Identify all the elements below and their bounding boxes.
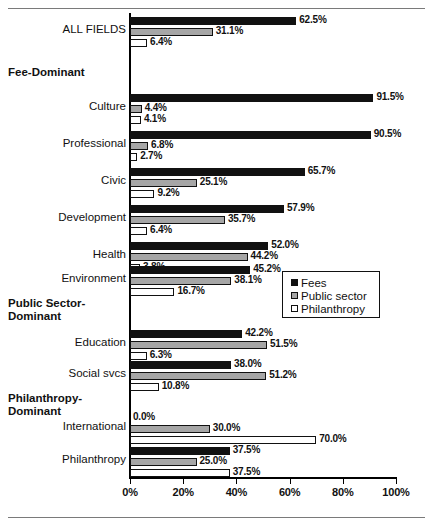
bar-philanthropy <box>130 352 147 360</box>
x-tick-mark <box>290 479 291 484</box>
bar-fees <box>130 330 242 338</box>
x-tick-label: 0% <box>122 486 138 498</box>
plot-area: 62.5%31.1%6.4%91.5%4.4%4.1%90.5%6.8%2.7%… <box>130 13 396 478</box>
bar-fees <box>130 131 371 139</box>
gray-square-icon <box>291 292 298 299</box>
bar-value-label: 2.7% <box>140 152 162 160</box>
bar-value-label: 9.2% <box>157 189 179 197</box>
bar-value-label: 25.1% <box>200 178 227 186</box>
bar-value-label: 0.0% <box>133 413 155 421</box>
bar-value-label: 30.0% <box>213 424 240 432</box>
legend-item-public-sector: Public sector <box>291 289 379 302</box>
category-label: Development <box>2 211 126 223</box>
section-header: Fee-Dominant <box>8 66 128 79</box>
bar-public-sector <box>130 105 142 113</box>
x-tick-mark <box>396 479 397 484</box>
bar-value-label: 35.7% <box>228 215 255 223</box>
bar-philanthropy <box>130 190 154 198</box>
bar-fees <box>130 447 230 455</box>
bar-public-sector <box>130 179 197 187</box>
bar-fees <box>130 242 268 250</box>
legend-label-philanthropy: Philanthropy <box>301 303 365 315</box>
bar-philanthropy <box>130 39 147 47</box>
x-tick-mark <box>343 479 344 484</box>
bar-fees <box>130 205 284 213</box>
bar-value-label: 25.0% <box>200 457 227 465</box>
chart-page: ALL FIELDSFee-DominantCultureProfessiona… <box>0 0 431 526</box>
chart-legend: Fees Public sector Philanthropy <box>282 271 380 318</box>
bar-value-label: 70.0% <box>319 435 346 443</box>
legend-label-fees: Fees <box>301 277 327 289</box>
bar-value-label: 10.8% <box>162 382 189 390</box>
bar-value-label: 51.2% <box>269 371 296 379</box>
bar-value-label: 90.5% <box>374 130 401 138</box>
category-label: Culture <box>2 100 126 112</box>
category-label: Education <box>2 336 126 348</box>
legend-label-public-sector: Public sector <box>301 290 367 302</box>
x-tick-label: 20% <box>172 486 193 498</box>
x-tick-label: 80% <box>332 486 353 498</box>
bar-value-label: 31.1% <box>216 27 243 35</box>
category-label: Philanthropy <box>2 453 126 465</box>
x-tick-label: 60% <box>279 486 300 498</box>
bar-value-label: 91.5% <box>376 93 403 101</box>
bar-fees <box>130 94 373 102</box>
bar-philanthropy <box>130 436 316 444</box>
category-label: Environment <box>2 272 126 284</box>
legend-item-fees: Fees <box>291 276 379 289</box>
bar-value-label: 52.0% <box>271 241 298 249</box>
section-header: Philanthropy-Dominant <box>8 392 128 417</box>
bar-value-label: 16.7% <box>177 287 204 295</box>
bar-philanthropy <box>130 227 147 235</box>
x-tick-label: 100% <box>382 486 409 498</box>
category-label-column: ALL FIELDSFee-DominantCultureProfessiona… <box>0 0 126 500</box>
bar-value-label: 6.3% <box>150 351 172 359</box>
bar-public-sector <box>130 253 248 261</box>
bar-philanthropy <box>130 469 230 477</box>
category-label: Civic <box>2 174 126 186</box>
category-label: International <box>2 420 126 432</box>
white-square-icon <box>291 305 298 312</box>
bar-public-sector <box>130 28 213 36</box>
bar-public-sector <box>130 458 197 466</box>
bar-philanthropy <box>130 153 137 161</box>
x-tick-mark <box>130 479 131 484</box>
bar-value-label: 65.7% <box>308 167 335 175</box>
bar-fees <box>130 168 305 176</box>
x-tick-label: 40% <box>226 486 247 498</box>
category-label: Professional <box>2 137 126 149</box>
bar-value-label: 37.5% <box>233 468 260 476</box>
bar-value-label: 42.2% <box>245 329 272 337</box>
bar-philanthropy <box>130 383 159 391</box>
bottom-divider-rule <box>8 517 425 518</box>
bar-value-label: 57.9% <box>287 204 314 212</box>
bar-philanthropy <box>130 288 174 296</box>
x-tick-mark <box>183 479 184 484</box>
category-label: Health <box>2 248 126 260</box>
bar-value-label: 51.5% <box>270 340 297 348</box>
bar-value-label: 4.1% <box>144 115 166 123</box>
bar-public-sector <box>130 425 210 433</box>
bar-value-label: 6.4% <box>150 38 172 46</box>
section-header: Public Sector-Dominant <box>8 297 128 322</box>
bar-public-sector <box>130 277 231 285</box>
bar-fees <box>130 17 296 25</box>
category-label: ALL FIELDS <box>2 23 126 35</box>
bar-value-label: 6.8% <box>151 141 173 149</box>
legend-item-philanthropy: Philanthropy <box>291 302 379 315</box>
bar-value-label: 6.4% <box>150 226 172 234</box>
bar-fees <box>130 361 231 369</box>
bar-philanthropy <box>130 116 141 124</box>
bar-public-sector <box>130 341 267 349</box>
bar-value-label: 38.1% <box>234 276 261 284</box>
bar-value-label: 37.5% <box>233 446 260 454</box>
bar-value-label: 62.5% <box>299 16 326 24</box>
bar-fees <box>130 266 250 274</box>
bar-value-label: 4.4% <box>145 104 167 112</box>
bar-value-label: 38.0% <box>234 360 261 368</box>
black-square-icon <box>291 279 298 286</box>
x-tick-mark <box>236 479 237 484</box>
bar-value-label: 45.2% <box>253 265 280 273</box>
bar-public-sector <box>130 372 266 380</box>
bar-public-sector <box>130 142 148 150</box>
